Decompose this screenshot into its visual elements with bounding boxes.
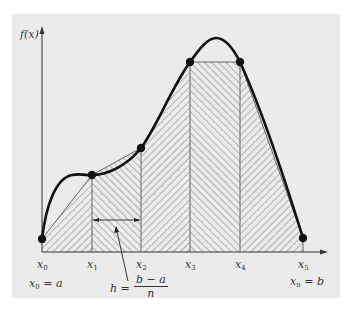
node-point-5 bbox=[299, 234, 307, 242]
step-formula-lhs: h = bbox=[110, 283, 130, 294]
y-axis-arrow-icon bbox=[40, 26, 45, 34]
x-axis-arrow-icon bbox=[320, 250, 328, 255]
x-tick-label-4: x4 bbox=[235, 259, 246, 272]
trapezoid-1 bbox=[92, 148, 141, 252]
trapezoid-4 bbox=[240, 62, 303, 252]
trapezoid-0 bbox=[42, 175, 92, 252]
node-point-4 bbox=[236, 58, 244, 66]
right-bound-label: xn = b bbox=[290, 276, 324, 289]
fraction-numerator: b − a bbox=[134, 274, 168, 287]
x-tick-label-0: x0 bbox=[37, 259, 48, 272]
node-point-1 bbox=[88, 171, 96, 179]
x-tick-label-3: x3 bbox=[185, 259, 196, 272]
node-point-2 bbox=[137, 144, 145, 152]
trapezoid-2 bbox=[141, 62, 190, 252]
x-tick-label-2: x2 bbox=[136, 259, 147, 272]
node-point-3 bbox=[186, 58, 194, 66]
x-tick-label-1: x1 bbox=[87, 259, 98, 272]
left-bound-label: x0 = a bbox=[29, 278, 62, 291]
y-axis-label: f(x) bbox=[20, 29, 39, 40]
node-point-0 bbox=[38, 235, 46, 243]
x-tick-label-5: x5 bbox=[298, 259, 309, 272]
step-formula-fraction: b − a n bbox=[134, 274, 168, 299]
trapezoid-3 bbox=[190, 62, 240, 252]
fraction-denominator: n bbox=[134, 287, 168, 299]
